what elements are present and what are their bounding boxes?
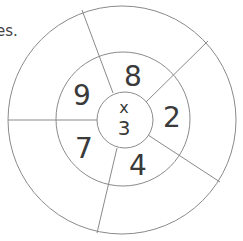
inner-number-bottom: 4 [129,149,147,182]
operator-symbol: x [119,98,128,117]
inner-number-lower-left: 7 [75,132,93,165]
inner-number-right: 2 [163,101,181,134]
divider-upper-right [146,41,208,102]
multiplication-wheel: x 3 8 2 4 7 9 [0,0,243,241]
inner-number-upper-left: 9 [73,79,91,112]
divider-lower-right [148,135,220,182]
center-multiplier: 3 [118,116,131,140]
inner-number-top: 8 [124,60,142,93]
divider-bottom [97,148,117,233]
